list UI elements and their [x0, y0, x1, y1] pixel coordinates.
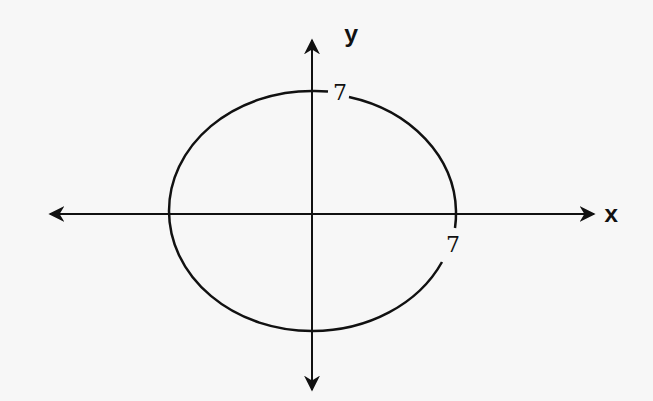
- ellipse-curve: [169, 91, 442, 331]
- x-intercept-label: 7: [446, 234, 460, 256]
- x-axis-label: x: [604, 204, 618, 228]
- ellipse-diagram: y x 7 7: [0, 0, 653, 401]
- diagram-canvas: [0, 0, 653, 401]
- ellipse-curve-upper-right: [349, 97, 456, 228]
- y-intercept-label: 7: [333, 82, 347, 104]
- y-axis-label: y: [344, 24, 358, 48]
